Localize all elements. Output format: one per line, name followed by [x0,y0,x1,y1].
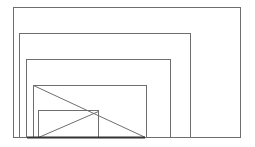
diagonal-line-2 [39,112,99,138]
rectangles-group [14,8,241,138]
rectangle-1 [14,8,241,138]
diagonal-lines-group [34,86,146,138]
diagonal-line-1 [34,86,146,138]
nested-rectangles-diagram [0,0,255,147]
